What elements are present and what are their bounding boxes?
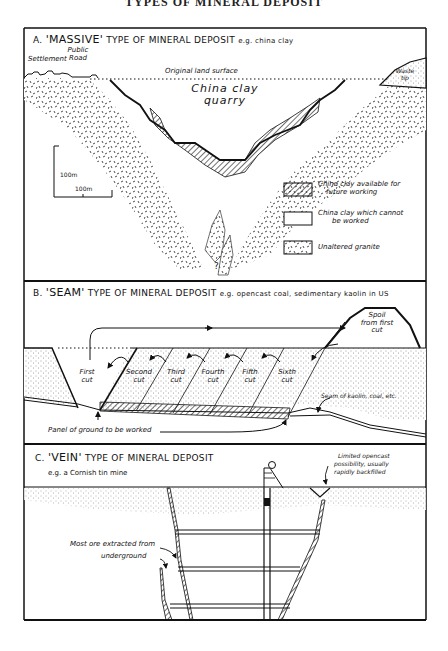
label-fifth-cut: Fifthcut	[235, 369, 265, 384]
label-fourth-cut: Fourthcut	[198, 369, 228, 384]
label-china-clay-quarry: China clay quarry	[180, 83, 270, 107]
scale-horizontal-label: 100m	[75, 186, 92, 193]
section-b-seam	[24, 281, 426, 444]
legend-swatch-hatched	[284, 183, 312, 196]
label-panel: Panel of ground to be worked	[48, 427, 151, 435]
label-underground: underground	[101, 553, 146, 561]
legend-label-hatched: China clay available for future working	[318, 181, 400, 196]
legend-swatch-granite	[284, 241, 312, 254]
section-c-title: C. 'VEIN' TYPE OF MINERAL DEPOSIT	[35, 452, 214, 464]
legend-label-granite: Unaltered granite	[318, 244, 380, 252]
label-seam: Seam of kaolin, coal, etc.	[321, 393, 397, 400]
scale-vertical-label: 100m	[60, 172, 77, 179]
label-original-land-surface: Original land surface	[165, 68, 238, 76]
label-settlement: Settlement	[28, 56, 67, 64]
label-most-ore-extracted: Most ore extracted from	[70, 541, 155, 549]
label-public-road: Public Road	[67, 47, 89, 62]
legend-label-blank: China clay which cannot be worked	[318, 210, 403, 225]
label-sixth-cut: Sixthcut	[272, 369, 302, 384]
legend-swatch-blank	[284, 212, 312, 225]
section-c-example: e.g. a Cornish tin mine	[48, 470, 127, 478]
label-limited-opencast: Limited opencast possibility, usually ra…	[338, 452, 390, 476]
label-waste-tip: Waste tip	[393, 68, 417, 81]
section-a-title: A. 'MASSIVE' TYPE OF MINERAL DEPOSIT e.g…	[33, 34, 294, 46]
label-second-cut: Secondcut	[124, 369, 154, 384]
label-question-mark: ?	[214, 262, 219, 272]
label-spoil: Spoil from first cut	[352, 312, 402, 335]
label-first-cut: Firstcut	[72, 369, 102, 384]
section-b-title: B. 'SEAM' TYPE OF MINERAL DEPOSIT e.g. o…	[33, 287, 389, 299]
label-third-cut: Thirdcut	[161, 369, 191, 384]
